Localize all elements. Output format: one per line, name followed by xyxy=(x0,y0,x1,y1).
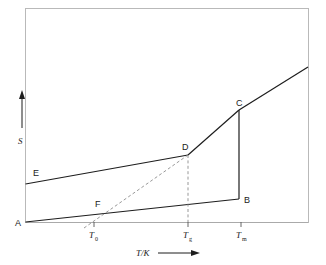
point-label-D: D xyxy=(182,142,189,152)
y-axis-arrow xyxy=(19,90,25,128)
entropy-temperature-diagram: A B C D E F S T 0 T g T m T/K xyxy=(0,0,326,265)
x-axis-label: T/K xyxy=(136,248,151,258)
extrapolation-dashed-line xyxy=(84,155,188,228)
x-axis-label-group: T/K xyxy=(136,248,200,258)
glass-branch-line xyxy=(26,155,189,184)
tick-label-T0: T 0 xyxy=(89,230,98,242)
supercooled-branch-line xyxy=(188,110,239,155)
tick-label-Tm: T m xyxy=(236,230,247,242)
crystal-branch-line xyxy=(26,199,240,222)
tick-label-Tm-sub: m xyxy=(242,236,247,242)
tick-label-Tg: T g xyxy=(183,230,192,242)
point-label-E: E xyxy=(33,168,39,178)
y-axis-label: S xyxy=(18,136,23,146)
liquid-branch-line xyxy=(239,67,308,110)
plot-frame xyxy=(26,9,309,223)
tick-label-Tg-sub: g xyxy=(189,236,192,242)
point-label-C: C xyxy=(236,98,243,108)
tick-label-T0-sub: 0 xyxy=(95,236,98,242)
point-label-B: B xyxy=(244,195,250,205)
point-label-F: F xyxy=(95,199,101,209)
point-label-A: A xyxy=(15,218,21,228)
